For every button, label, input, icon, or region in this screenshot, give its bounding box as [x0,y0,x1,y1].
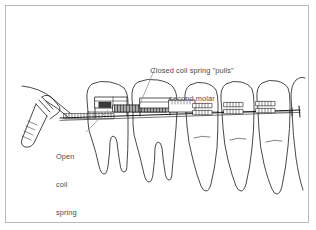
molar-tooth [87,81,128,174]
open-coil-label-line-1: Open [56,152,80,161]
open-coil-label-line-3: spring [56,208,80,217]
closed-coil-label-line-2: second molar [133,94,251,103]
closed-coil-label-line-1: Closed coil spring "pulls" [133,66,251,75]
canine-tooth [257,80,290,194]
open-coil-label-line-2: coil [56,180,80,189]
bracket [256,101,275,112]
leader-line-open-coil [86,110,108,132]
open-coil-spring-label: Open coil spring "holds" first molar [56,133,80,230]
illustration-frame: Closed coil spring "pulls" second molar … [0,0,316,230]
canine-tooth [291,77,305,190]
closed-coil-spring-label: Closed coil spring "pulls" second molar [133,47,251,122]
